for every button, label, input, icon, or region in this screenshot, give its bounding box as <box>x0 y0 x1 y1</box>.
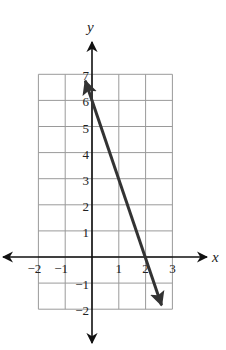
x-tick-label: −2 <box>27 261 41 276</box>
x-axis-label: x <box>211 249 219 265</box>
y-tick-label: 3 <box>83 173 90 188</box>
y-tick-label: −1 <box>75 277 89 292</box>
x-tick-label: 1 <box>116 261 123 276</box>
y-tick-label: 5 <box>83 121 90 136</box>
y-axis-label: y <box>85 19 94 35</box>
line-y-equals-neg3x-plus-6 <box>85 81 161 305</box>
y-tick-label: 6 <box>83 94 90 109</box>
coordinate-plane: −2−1123−2−11234567 x y <box>0 0 226 350</box>
y-tick-label: 4 <box>83 147 90 162</box>
x-tick-label: −1 <box>54 261 68 276</box>
y-tick-label: 1 <box>83 225 90 240</box>
y-tick-label: 2 <box>83 199 90 214</box>
axes <box>3 42 207 343</box>
plotted-line <box>85 81 161 305</box>
x-tick-label: 3 <box>169 261 176 276</box>
y-tick-label: −2 <box>75 303 89 318</box>
